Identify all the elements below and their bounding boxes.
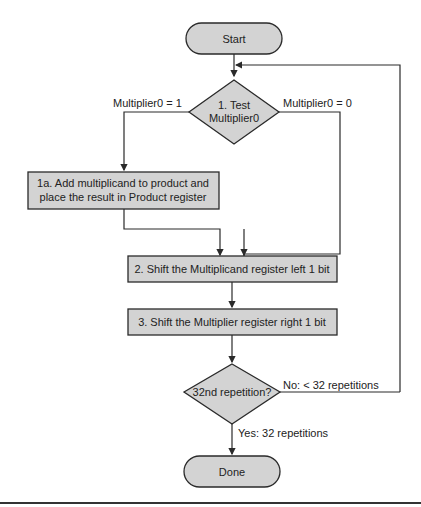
step-2-label: 2. Shift the Multiplicand register left … <box>134 263 329 275</box>
yes-branch-label: Yes: 32 repetitions <box>238 427 329 439</box>
test-multiplier0-decision: 1. Test Multiplier0 <box>189 80 279 144</box>
step-3-shift-multiplier-box: 3. Shift the Multiplier register right 1… <box>128 309 337 335</box>
done-terminal: Done <box>184 456 280 487</box>
step-3-label: 3. Shift the Multiplier register right 1… <box>138 316 326 328</box>
start-label: Start <box>222 33 245 45</box>
done-label: Done <box>219 466 245 478</box>
multiplication-flowchart: Start 1. Test Multiplier0 Multiplier0 = … <box>0 0 421 507</box>
step-1a-line1: 1a. Add multiplicand to product and <box>37 177 209 189</box>
start-terminal: Start <box>186 23 282 54</box>
step-2-shift-multiplicand-box: 2. Shift the Multiplicand register left … <box>128 256 337 282</box>
connector-test-1a <box>124 112 189 170</box>
step-1a-add-box: 1a. Add multiplicand to product and plac… <box>28 172 219 209</box>
decision-label: 32nd repetition? <box>193 386 272 398</box>
connector-1a-step2 <box>124 209 220 255</box>
connector-test-right <box>244 112 340 256</box>
branch-label-multiplier0-0: Multiplier0 = 0 <box>283 97 352 109</box>
no-branch-label: No: < 32 repetitions <box>283 379 379 391</box>
test-label-line1: 1. Test <box>218 99 250 111</box>
test-label-line2: Multiplier0 <box>209 112 259 124</box>
repetition-decision: 32nd repetition? <box>184 364 280 424</box>
step-1a-line2: place the result in Product register <box>40 191 207 203</box>
branch-label-multiplier0-1: Multiplier0 = 1 <box>113 97 182 109</box>
